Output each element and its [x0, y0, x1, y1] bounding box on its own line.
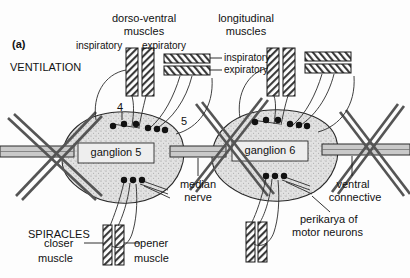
perikarya-label-line1: perikarya of: [300, 213, 357, 225]
perikarya-dots-ganglion-5-ventral: [121, 177, 145, 183]
closer-muscle-label-line1: closer: [44, 237, 73, 249]
spiracle-closer-muscle-right: [246, 222, 255, 262]
dorso-ventral-expiratory-label: expiratory: [142, 40, 186, 51]
ventral-connective-label-line1: ventral: [318, 178, 388, 190]
median-nerve-label-line1: median: [168, 178, 228, 190]
longitudinal-muscle-inspiratory-left: [164, 54, 210, 63]
longitudinal-muscle-inspiratory-right: [305, 52, 351, 61]
spiracle-opener-muscle-left: [115, 225, 124, 265]
nerve-number-4: 4: [117, 101, 123, 113]
longitudinal-muscle-expiratory-right: [305, 64, 351, 73]
dorso-ventral-muscles-title-line1: dorso-ventral: [92, 12, 196, 24]
longitudinal-inspiratory-label: inspiratory: [224, 52, 270, 63]
ventral-connective-label-line2: connective: [310, 191, 400, 203]
ganglion-5-label: ganglion 5: [78, 146, 154, 158]
opener-muscle-label-line1: opener: [134, 237, 168, 249]
figure-panel-a: (a) VENTILATION SPIRACLES dorso-ventral …: [0, 0, 410, 278]
longitudinal-muscle-expiratory-left: [164, 66, 210, 75]
ganglion-6-label: ganglion 6: [232, 144, 308, 156]
median-nerve-label-line2: nerve: [168, 191, 228, 203]
spiracle-closer-muscle-left: [103, 225, 112, 265]
closer-muscle-label-line2: muscle: [38, 252, 73, 264]
spiracle-opener-muscle-right: [258, 222, 267, 262]
longitudinal-muscles-title-line1: longitudinal: [196, 12, 296, 24]
longitudinal-muscles-title-line2: muscles: [196, 25, 296, 37]
opener-muscle-label-line2: muscle: [134, 252, 169, 264]
section-label-ventilation: VENTILATION: [10, 61, 81, 73]
dorso-ventral-inspiratory-label: inspiratory: [76, 40, 122, 51]
dorso-ventral-muscle-expiratory-right: [283, 48, 295, 96]
dorso-ventral-muscles-title-line2: muscles: [92, 25, 196, 37]
perikarya-label-line2: motor neurons: [292, 226, 363, 238]
longitudinal-expiratory-label: expiratory: [224, 64, 268, 75]
nerve-number-5: 5: [181, 115, 187, 127]
perikarya-dots-ganglion-6-ventral: [263, 173, 287, 179]
dorso-ventral-muscle-expiratory-left: [142, 48, 154, 96]
panel-label: (a): [12, 38, 25, 50]
dorso-ventral-muscle-inspiratory-left: [126, 48, 138, 96]
